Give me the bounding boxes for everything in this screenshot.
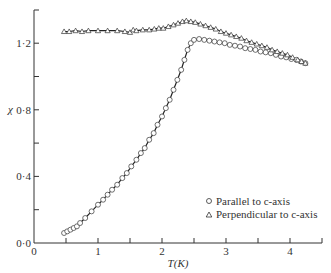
data-point-parallel bbox=[253, 47, 258, 52]
data-point-parallel bbox=[147, 137, 152, 142]
data-point-parallel bbox=[263, 50, 268, 55]
data-point-parallel bbox=[138, 151, 143, 156]
x-tick-label: 0 bbox=[31, 245, 37, 257]
data-point-parallel bbox=[179, 67, 184, 72]
data-point-parallel bbox=[151, 131, 156, 136]
data-point-parallel bbox=[163, 106, 168, 111]
y-axis-label: χ bbox=[7, 103, 14, 115]
x-tick-label: 3 bbox=[223, 245, 229, 257]
data-point-parallel bbox=[243, 46, 248, 51]
data-point-parallel bbox=[96, 202, 101, 207]
data-point-parallel bbox=[175, 77, 180, 82]
x-tick-label: 1 bbox=[95, 245, 101, 257]
y-tick-label: 1·2 bbox=[16, 37, 31, 49]
y-tick-label: 0·8 bbox=[16, 104, 31, 116]
data-point-parallel bbox=[124, 171, 129, 176]
data-point-perpendicular bbox=[184, 18, 189, 23]
data-point-parallel bbox=[227, 42, 232, 47]
data-point-parallel bbox=[167, 97, 172, 102]
data-point-parallel bbox=[217, 40, 222, 45]
data-point-parallel bbox=[129, 164, 134, 169]
chart: 01234 0·00·40·81·2 T(K) χ Parallel to c-… bbox=[0, 0, 331, 273]
data-point-parallel bbox=[202, 37, 207, 42]
data-point-parallel bbox=[101, 197, 106, 202]
data-point-parallel bbox=[78, 221, 83, 226]
data-point-parallel bbox=[83, 216, 88, 221]
data-point-parallel bbox=[89, 209, 94, 214]
data-point-parallel bbox=[110, 187, 115, 192]
y-tick-label: 0·4 bbox=[16, 170, 31, 182]
x-ticks: 01234 bbox=[31, 238, 322, 257]
data-point-parallel bbox=[238, 44, 243, 49]
data-point-parallel bbox=[182, 57, 187, 62]
x-tick-label: 4 bbox=[287, 245, 293, 257]
data-point-parallel bbox=[222, 41, 227, 46]
data-point-parallel bbox=[212, 39, 217, 44]
data-point-parallel bbox=[134, 157, 139, 162]
legend-triangle-icon bbox=[206, 212, 212, 217]
data-point-parallel bbox=[197, 37, 202, 42]
legend: Parallel to c-axis Perpendicular to c-ax… bbox=[206, 195, 317, 220]
data-point-parallel bbox=[155, 122, 160, 127]
x-axis-label: T(K) bbox=[168, 257, 189, 270]
data-point-parallel bbox=[248, 47, 253, 52]
data-point-parallel bbox=[258, 49, 263, 54]
data-point-parallel bbox=[160, 114, 165, 119]
y-ticks: 0·00·40·81·2 bbox=[16, 37, 39, 249]
data-point-parallel bbox=[207, 38, 212, 43]
data-point-parallel bbox=[115, 182, 120, 187]
data-point-parallel bbox=[192, 37, 197, 42]
data-point-parallel bbox=[171, 87, 176, 92]
data-point-parallel bbox=[142, 146, 147, 151]
data-point-parallel bbox=[185, 47, 190, 52]
y-tick-label: 0·0 bbox=[16, 237, 31, 249]
legend-label-perpendicular: Perpendicular to c-axis bbox=[216, 208, 317, 220]
data-point-parallel bbox=[232, 43, 237, 48]
data-point-parallel bbox=[105, 192, 110, 197]
legend-label-parallel: Parallel to c-axis bbox=[216, 195, 290, 207]
data-point-parallel bbox=[120, 176, 125, 181]
x-tick-label: 2 bbox=[159, 245, 165, 257]
legend-circle-icon bbox=[207, 199, 212, 204]
